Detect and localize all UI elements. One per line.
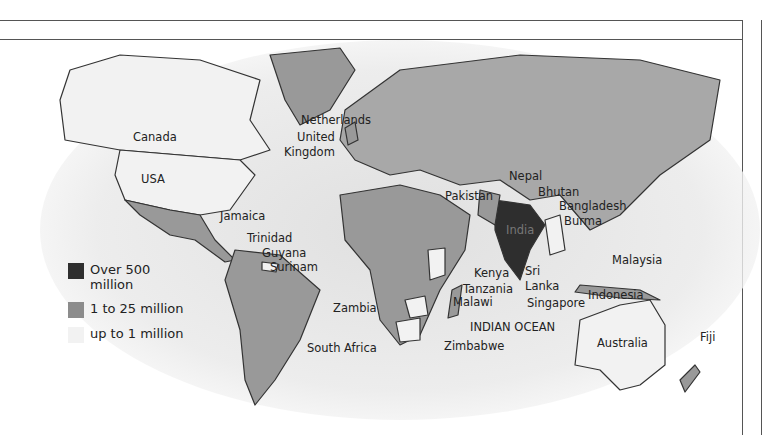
label-netherlands: Netherlands <box>301 114 371 127</box>
label-nepal: Nepal <box>509 170 542 183</box>
legend-label: 1 to 25 million <box>90 301 184 316</box>
label-burma: Burma <box>564 215 602 228</box>
label-surinam: Surinam <box>270 261 318 274</box>
label-canada: Canada <box>133 131 177 144</box>
legend-swatch-medium <box>68 302 84 318</box>
label-malaysia: Malaysia <box>612 254 662 267</box>
label-united: United <box>297 131 335 144</box>
label-indian-ocean: INDIAN OCEAN <box>470 321 555 334</box>
label-kingdom: Kingdom <box>284 146 335 159</box>
label-kenya: Kenya <box>474 267 509 280</box>
label-trinidad: Trinidad <box>247 232 292 245</box>
label-sri: Sri <box>525 265 540 278</box>
label-malawi: Malawi <box>453 296 493 309</box>
legend-item-over-500-million: Over 500 million <box>68 262 150 292</box>
label-bangladesh: Bangladesh <box>559 200 626 213</box>
label-singapore: Singapore <box>527 297 585 310</box>
label-usa: USA <box>141 173 165 186</box>
label-bhutan: Bhutan <box>538 186 579 199</box>
label-jamaica: Jamaica <box>220 210 265 223</box>
label-australia: Australia <box>597 337 648 350</box>
legend-swatch-light <box>68 327 84 343</box>
label-zimbabwe: Zimbabwe <box>444 340 504 353</box>
legend-label: up to 1 million <box>90 326 184 341</box>
label-pakistan: Pakistan <box>445 190 493 203</box>
legend-item-1-to-25-million: 1 to 25 million <box>68 301 184 318</box>
label-india: India <box>506 224 534 237</box>
label-guyana: Guyana <box>262 247 306 260</box>
world-map <box>0 0 775 435</box>
label-fiji: Fiji <box>700 331 715 344</box>
label-lanka: Lanka <box>525 280 559 293</box>
legend-swatch-dark <box>68 263 84 279</box>
legend-label-cont: million <box>90 277 150 292</box>
label-indonesia: Indonesia <box>588 289 644 302</box>
label-zambia: Zambia <box>333 302 377 315</box>
legend-item-up-to-1-million: up to 1 million <box>68 326 184 343</box>
legend-label: Over 500 <box>90 262 150 277</box>
label-south-africa: South Africa <box>307 342 377 355</box>
